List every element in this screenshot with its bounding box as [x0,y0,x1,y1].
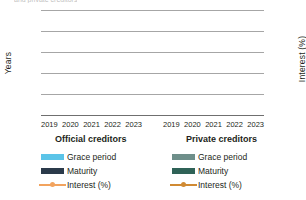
grace-period-swatch-icon [172,154,195,160]
legend-swatch-cell [37,168,67,174]
legend-label-official-grace-period: Grace period [67,152,116,162]
legend-swatch-cell [168,168,198,174]
legend-official-creditors: Official creditors Grace period Maturity… [37,134,157,192]
maturity-swatch-icon [172,168,195,174]
legend-swatch-cell [37,154,67,160]
chart-canvas: Years Interest (%) 50 40 30 20 10 0 15 1… [0,6,306,122]
legend-item-official-interest[interactable]: Interest (%) [37,178,157,191]
legend-private-creditors: Private creditors Grace period Maturity … [168,134,288,192]
legend-container: Official creditors Grace period Maturity… [0,134,306,200]
interest-line-swatch-icon [39,182,66,188]
x-tick-private-2020: 2020 [184,120,201,130]
x-tick-official-2019: 2019 [41,120,58,130]
legend-swatch-cell [168,182,198,188]
legend-item-private-grace-period[interactable]: Grace period [168,150,288,163]
legend-item-private-interest[interactable]: Interest (%) [168,178,288,191]
legend-item-official-grace-period[interactable]: Grace period [37,150,157,163]
y-axis-right-title: Interest (%) [297,31,306,87]
x-axis-tick-row: 2019 2020 2021 2022 2023 2019 2020 2021 … [0,120,306,132]
x-ticks-private: 2019 2020 2021 2022 2023 [163,120,264,130]
x-tick-private-2022: 2022 [226,120,243,130]
plot-area: 50 40 30 20 10 0 15 12 9 6 3 0 [41,10,264,115]
y-axis-left-title: Years [3,40,13,86]
gridline-30 [41,52,264,53]
x-tick-private-2021: 2021 [205,120,222,130]
legend-swatch-cell [37,182,67,188]
x-tick-private-2023: 2023 [247,120,264,130]
x-tick-private-2019: 2019 [163,120,180,130]
x-tick-official-2023: 2023 [125,120,142,130]
legend-item-official-maturity[interactable]: Maturity [37,164,157,177]
gridline-40 [41,31,264,32]
axis-baseline [41,115,264,116]
x-ticks-official: 2019 2020 2021 2022 2023 [41,120,142,130]
legend-label-private-interest: Interest (%) [198,180,242,190]
grace-period-swatch-icon [41,154,64,160]
maturity-swatch-icon [41,168,64,174]
legend-swatch-cell [168,154,198,160]
legend-private-title: Private creditors [168,134,288,144]
gridline-20 [41,73,264,74]
gridline-50 [41,10,264,11]
legend-official-title: Official creditors [37,134,157,144]
gridline-10 [41,94,264,95]
legend-label-official-interest: Interest (%) [67,180,111,190]
x-tick-official-2022: 2022 [104,120,121,130]
legend-item-private-maturity[interactable]: Maturity [168,164,288,177]
legend-label-official-maturity: Maturity [67,166,97,176]
interest-line-swatch-icon [170,182,197,188]
legend-label-private-grace-period: Grace period [198,152,247,162]
x-tick-official-2021: 2021 [83,120,100,130]
legend-label-private-maturity: Maturity [198,166,228,176]
clipped-title-fragment: and private creditors [14,0,77,3]
x-tick-official-2020: 2020 [62,120,79,130]
